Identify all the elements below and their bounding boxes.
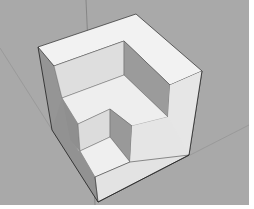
model-viewport[interactable] xyxy=(0,0,249,205)
stepped-cube-model xyxy=(0,0,249,205)
